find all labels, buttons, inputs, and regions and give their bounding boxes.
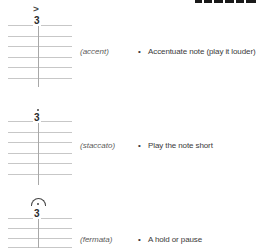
- tab-note-number: 3: [33, 16, 41, 26]
- definition-text-staccato: Play the note short: [148, 141, 213, 151]
- staff-line: [8, 78, 72, 79]
- tab-staff-staccato: 3: [8, 105, 72, 190]
- notation-legend-page: > 3 (accent) • Accentuate note (play it …: [0, 0, 259, 248]
- staff-line: [8, 36, 72, 37]
- staff-line: [8, 153, 72, 154]
- tab-staff-fermata: 3: [8, 196, 72, 248]
- fermata-icon: [31, 198, 46, 206]
- heading-letter-bottom: [236, 0, 244, 3]
- staff-line: [8, 132, 72, 133]
- symbol-label-fermata: (fermata): [80, 235, 112, 245]
- note-stem: [38, 121, 39, 185]
- fermata-dot: [37, 203, 39, 205]
- definition-text-accent: Accentuate note (play it louder): [148, 47, 256, 57]
- staff-line: [8, 238, 72, 239]
- bullet-icon: •: [138, 47, 141, 57]
- heading-letter-bottom: [225, 0, 234, 3]
- accent-mark-icon: >: [33, 6, 39, 14]
- staff-line: [8, 67, 72, 68]
- symbol-label-accent: (accent): [80, 47, 109, 57]
- heading-letter-bottom: [204, 0, 212, 3]
- staff-line: [8, 174, 72, 175]
- staff-line: [8, 46, 72, 47]
- note-stem: [38, 218, 39, 248]
- tab-note-number: 3: [33, 209, 41, 219]
- bullet-icon: •: [138, 235, 141, 245]
- tab-note-number: 3: [33, 113, 41, 123]
- staff-line: [8, 57, 72, 58]
- note-stem: [38, 25, 39, 87]
- symbol-label-staccato: (staccato): [80, 141, 115, 151]
- staff-line: [8, 142, 72, 143]
- heading-letter-bottom: [214, 0, 223, 3]
- bullet-icon: •: [138, 141, 141, 151]
- definition-text-fermata: A hold or pause: [148, 235, 202, 245]
- heading-letter-bottom: [195, 0, 202, 3]
- heading-letter-bottom: [246, 0, 256, 3]
- staccato-dot-icon: [37, 109, 39, 111]
- staff-line: [8, 163, 72, 164]
- tab-staff-accent: > 3: [8, 5, 72, 90]
- staff-line: [8, 228, 72, 229]
